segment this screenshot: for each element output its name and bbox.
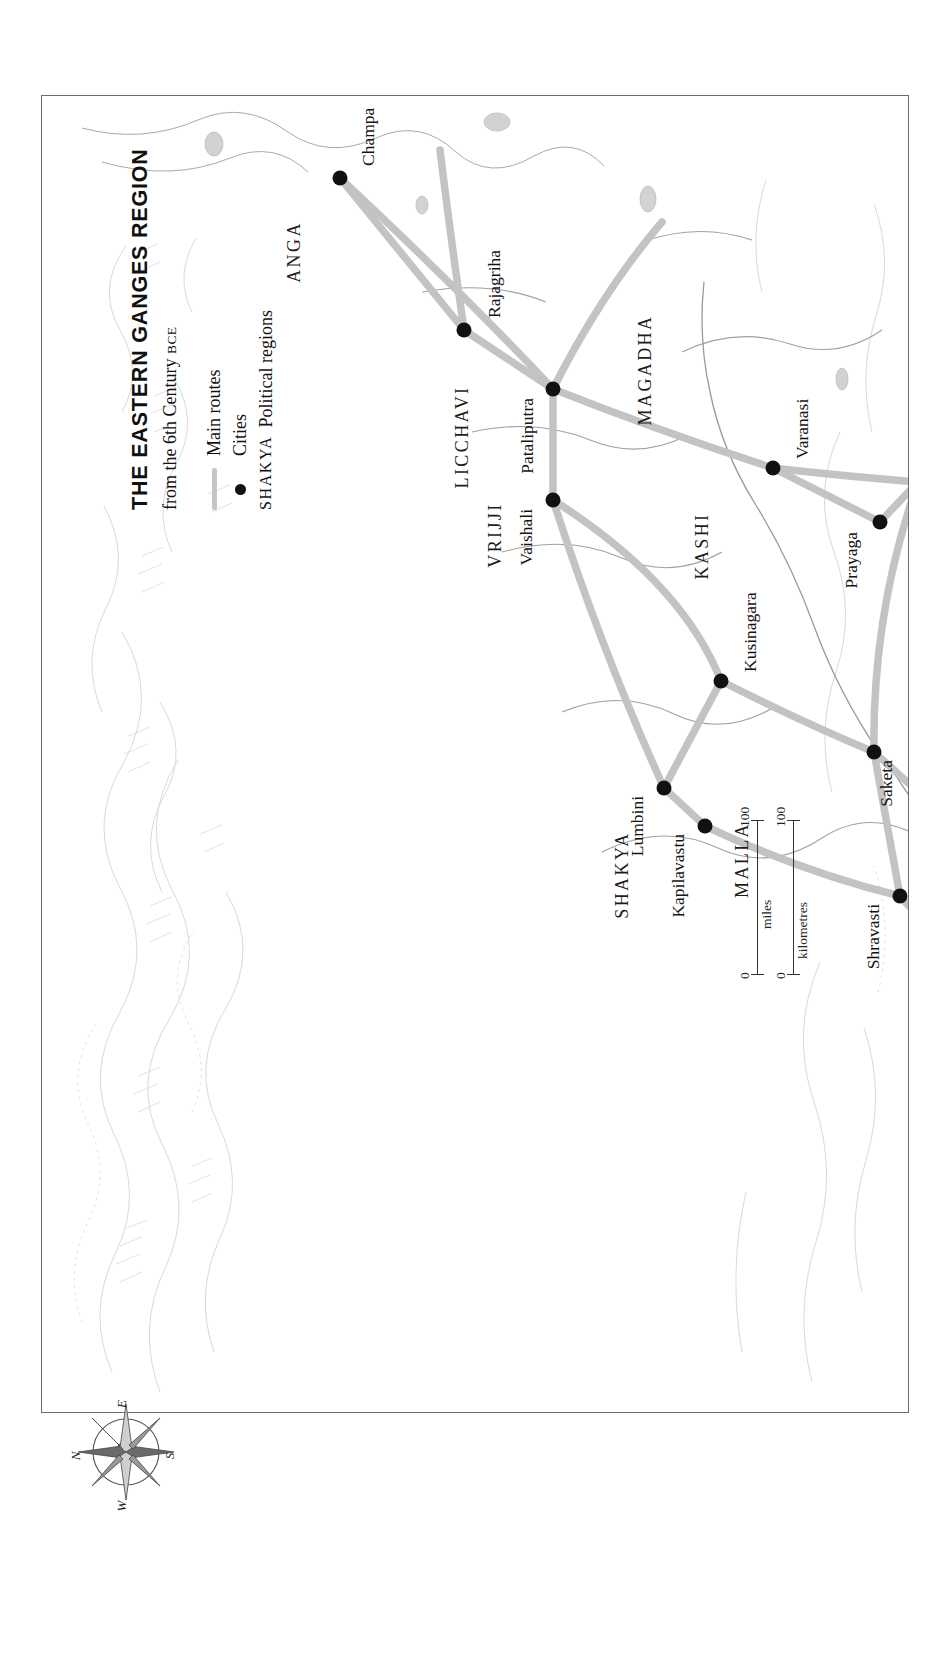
map-legend: Main routes Cities SHAKYA Political regi… [201,148,279,510]
city-dot [893,889,908,904]
compass-north-label: N [68,1450,83,1461]
scale-miles-unit: miles [759,900,775,929]
city-label: Vaishali [518,509,536,565]
map-subtitle-text: from the 6th Century [160,354,180,510]
region-label: SHAKYA [613,831,631,918]
city-dot [766,461,781,476]
city-dot [457,323,472,338]
legend-regions-label: Political regions [256,310,277,427]
scale-row-kilometres: 0 100 kilometres [781,793,815,975]
city-label: Kapilavastu [670,834,688,918]
region-label: VRIJJI [486,502,504,567]
scale-km-max: 100 [773,807,789,827]
map-subtitle-era: BCE [164,327,179,354]
city-label: Prayaga [843,532,861,588]
scale-km-unit: kilometres [795,902,811,959]
legend-row-routes: Main routes [201,148,227,510]
city-label: Varanasi [794,399,812,459]
region-label: ANGA [285,221,303,283]
city-dot [657,781,672,796]
city-dot [546,382,561,397]
scale-bar: 0 100 miles 0 100 kilometres [745,793,815,975]
route-line-swatch [212,464,217,510]
city-dot [333,171,348,186]
region-label: KASHI [693,512,711,579]
region-label: LICCHAVI [453,386,471,489]
city-dot [698,819,713,834]
city-label: Saketa [878,760,896,807]
city-dot [867,745,882,760]
legend-row-cities: Cities [227,148,253,510]
city-label: Kusinagara [742,592,760,672]
city-dot-swatch [235,464,246,510]
legend-row-regions: SHAKYA Political regions [253,148,279,510]
compass-rose: N E S W [66,1392,186,1512]
compass-east-label: E [114,1400,129,1409]
city-dot [873,515,888,530]
region-label: MAGADHA [636,315,654,426]
city-label: Pataliputra [519,398,537,474]
city-dot [714,674,729,689]
legend-routes-label: Main routes [204,370,225,456]
city-label: Rajagriha [486,250,504,318]
compass-west-label: W [114,1499,129,1511]
title-legend-block: THE EASTERN GANGES REGION from the 6th C… [128,148,279,510]
map-title: THE EASTERN GANGES REGION [128,148,153,510]
city-label: Champa [360,108,378,166]
map-subtitle: from the 6th Century BCE [160,148,181,510]
legend-cities-label: Cities [230,414,251,456]
city-dot [546,493,561,508]
map-page: .relief{fill:none;stroke:#d9d9d9;stroke-… [0,0,947,1663]
legend-region-key: SHAKYA [257,436,275,511]
scale-miles-max: 100 [737,807,753,827]
compass-south-label: S [162,1452,177,1459]
city-label: Shravasti [865,904,883,969]
